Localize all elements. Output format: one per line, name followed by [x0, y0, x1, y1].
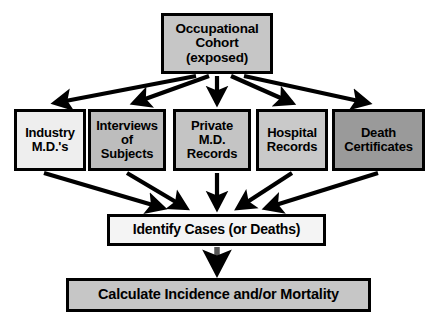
node-calculate-incidence-mortality[interactable]: Calculate Incidence and/or Mortality: [66, 278, 371, 312]
edge-hospital-identify: [238, 173, 292, 208]
edge-cohort-industry: [55, 76, 196, 103]
node-occupational-cohort[interactable]: Occupational Cohort (exposed): [161, 13, 273, 74]
node-identify-cases[interactable]: Identify Cases (or Deaths): [107, 214, 326, 246]
edge-death-identify: [266, 173, 378, 208]
edge-cohort-death: [244, 76, 368, 103]
node-death-certificates[interactable]: Death Certificates: [332, 109, 425, 171]
node-private-md-records[interactable]: Private M.D. Records: [173, 109, 251, 171]
edge-cohort-hospital: [231, 76, 292, 103]
edge-industry-identify: [44, 173, 163, 208]
edge-cohort-interviews: [134, 76, 209, 103]
node-interviews-of-subjects[interactable]: Interviews of Subjects: [88, 109, 166, 171]
node-industry-mds[interactable]: Industry M.D.'s: [14, 109, 86, 171]
node-hospital-records[interactable]: Hospital Records: [256, 109, 328, 171]
cohort-study-flow-diagram: Occupational Cohort (exposed) Industry M…: [0, 0, 438, 321]
edge-interviews-identify: [127, 173, 186, 208]
